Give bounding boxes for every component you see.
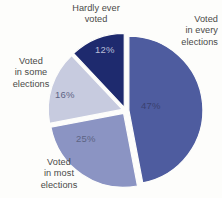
pie-slice-voted-in-every-elections[interactable] [129, 36, 203, 183]
slice-label-voted-in-some-elections: Voted in some elections [2, 56, 60, 90]
slice-label-voted-in-most-elections: Voted in most elections [20, 157, 98, 191]
pie-chart-figure: 47% 25% 16% 12% Voted in every elections… [0, 0, 222, 198]
slice-label-hardly-ever-voted: Hardly ever voted [55, 3, 137, 26]
slice-label-voted-in-every-elections: Voted in every elections [181, 14, 218, 48]
